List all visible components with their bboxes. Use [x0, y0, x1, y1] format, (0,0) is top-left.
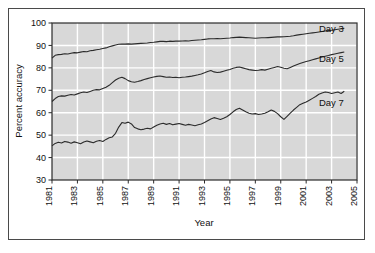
y-tick-label: 60: [36, 108, 46, 118]
x-tick-label: 1995: [222, 186, 232, 206]
line-chart: 10090807060504030 1981198319851987198919…: [0, 0, 375, 253]
x-tick-label: 1983: [69, 186, 79, 206]
x-tick-label: 1985: [95, 186, 105, 206]
y-tick-label: 50: [36, 130, 46, 140]
y-tick-label: 100: [31, 18, 46, 28]
x-axis-title: Year: [194, 217, 213, 228]
y-tick-label: 40: [36, 153, 46, 163]
x-tick-label: 2001: [298, 186, 308, 206]
series-label-day-7: Day 7: [319, 97, 344, 108]
x-axis-ticks: 1981198319851987198919911993199519971999…: [44, 180, 359, 206]
y-tick-label: 80: [36, 63, 46, 73]
y-tick-label: 70: [36, 85, 46, 95]
x-tick-label: 2003: [324, 186, 334, 206]
x-tick-label: 1989: [146, 186, 156, 206]
x-tick-label: 1999: [273, 186, 283, 206]
x-tick-label: 1997: [247, 186, 257, 206]
x-tick-label: 1991: [171, 186, 181, 206]
series-label-day-3: Day 3: [319, 23, 344, 34]
x-tick-label: 1981: [44, 186, 54, 206]
x-tick-label: 1993: [197, 186, 207, 206]
y-tick-label: 30: [36, 175, 46, 185]
y-axis-title: Percent accuracy: [13, 64, 24, 138]
y-axis-ticks: 10090807060504030: [31, 18, 52, 185]
x-tick-label: 1987: [120, 186, 130, 206]
figure-container: 10090807060504030 1981198319851987198919…: [0, 0, 375, 253]
series-label-day-5: Day 5: [319, 53, 344, 64]
x-tick-label: 2005: [349, 186, 359, 206]
y-tick-label: 90: [36, 41, 46, 51]
plot-wrapper: 10090807060504030 1981198319851987198919…: [0, 0, 375, 253]
